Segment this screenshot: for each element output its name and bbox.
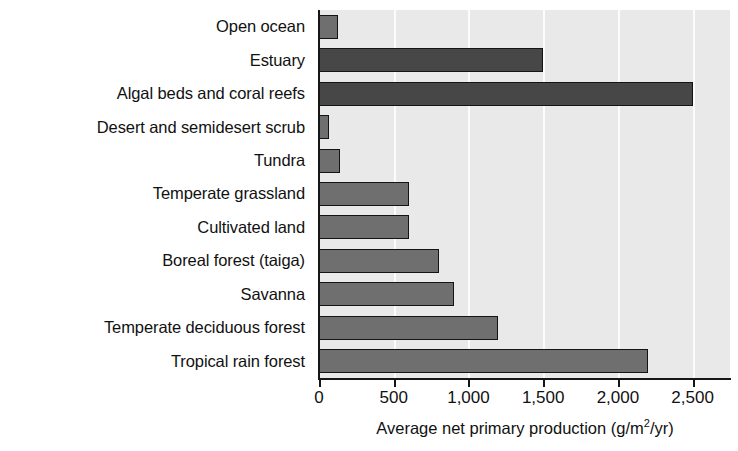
bar-row bbox=[319, 10, 730, 43]
bar bbox=[319, 215, 409, 239]
x-axis-tick-label: 2,500 bbox=[671, 388, 714, 408]
x-axis-tick-label: 0 bbox=[314, 388, 323, 408]
bar-row bbox=[319, 77, 730, 110]
x-axis-tick-label: 2,000 bbox=[597, 388, 640, 408]
bar bbox=[319, 182, 409, 206]
x-axis-line bbox=[318, 378, 731, 380]
bar-row bbox=[319, 177, 730, 210]
plot-area bbox=[319, 10, 730, 378]
category-label: Savanna bbox=[0, 278, 312, 311]
x-axis-tick-mark bbox=[319, 380, 321, 387]
bar-row bbox=[319, 43, 730, 76]
bar-row bbox=[319, 110, 730, 143]
category-label: Desert and semidesert scrub bbox=[0, 110, 312, 143]
x-axis-tick-label: 1,500 bbox=[522, 388, 565, 408]
bar-row bbox=[319, 211, 730, 244]
y-axis-category-labels: Open ocean Estuary Algal beds and coral … bbox=[0, 10, 312, 378]
x-axis-tick-mark bbox=[543, 380, 545, 387]
bar bbox=[319, 48, 543, 72]
category-label: Estuary bbox=[0, 43, 312, 76]
x-axis-tick-label: 1,000 bbox=[447, 388, 490, 408]
x-axis-tick-mark bbox=[468, 380, 470, 387]
bar-row bbox=[319, 345, 730, 378]
x-axis-tick-mark bbox=[618, 380, 620, 387]
category-label: Boreal forest (taiga) bbox=[0, 244, 312, 277]
bar-row bbox=[319, 144, 730, 177]
bar bbox=[319, 249, 439, 273]
bar bbox=[319, 282, 454, 306]
bar-row bbox=[319, 244, 730, 277]
x-axis-tick-mark bbox=[693, 380, 695, 387]
bar-chart: Open ocean Estuary Algal beds and coral … bbox=[0, 0, 738, 451]
category-label: Temperate deciduous forest bbox=[0, 311, 312, 344]
bar bbox=[319, 349, 648, 373]
x-axis-title: Average net primary production (g/m2/yr) bbox=[319, 417, 731, 438]
bar bbox=[319, 149, 340, 173]
bar bbox=[319, 316, 498, 340]
bar bbox=[319, 115, 329, 139]
bar-row bbox=[319, 278, 730, 311]
category-label: Temperate grassland bbox=[0, 177, 312, 210]
bar bbox=[319, 82, 693, 106]
x-axis-tick-label: 500 bbox=[380, 388, 408, 408]
category-label: Algal beds and coral reefs bbox=[0, 77, 312, 110]
category-label: Cultivated land bbox=[0, 211, 312, 244]
bar-series bbox=[319, 10, 730, 378]
x-axis-tick-mark bbox=[394, 380, 396, 387]
x-axis-tick-labels: 05001,0001,5002,0002,500 bbox=[0, 388, 738, 412]
bar-row bbox=[319, 311, 730, 344]
category-label: Tropical rain forest bbox=[0, 345, 312, 378]
category-label: Tundra bbox=[0, 144, 312, 177]
bar bbox=[319, 15, 338, 39]
y-axis-line bbox=[318, 10, 320, 380]
category-label: Open ocean bbox=[0, 10, 312, 43]
